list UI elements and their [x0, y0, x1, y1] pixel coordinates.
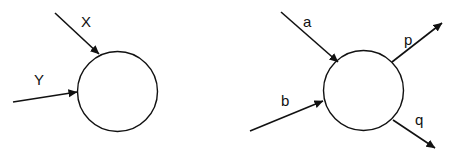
edge-label-b: b [281, 92, 289, 109]
edge-label-x: X [81, 13, 91, 30]
edge-label-a: a [303, 13, 312, 30]
node-circle [324, 51, 404, 131]
node-circle [78, 52, 158, 132]
arrow-in-y [13, 92, 77, 102]
edge-label-y: Y [34, 71, 44, 88]
edge-label-p: p [404, 31, 412, 48]
arrow-out-q [393, 120, 435, 148]
arrow-in-x [55, 13, 99, 54]
edge-label-q: q [415, 111, 423, 128]
flow-diagram: XYabpq [0, 0, 457, 158]
node-inputs-outputs: abpq [250, 12, 442, 148]
single-node-inputs: XY [13, 13, 158, 132]
arrow-out-p [392, 23, 442, 62]
